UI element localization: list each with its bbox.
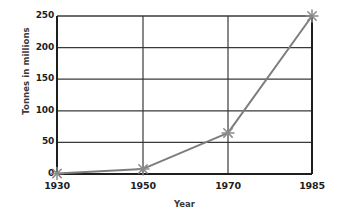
x-tick-label-1930: 1930 <box>27 180 87 191</box>
x-axis-title: Year <box>57 199 312 209</box>
data-point-1930 <box>51 167 63 179</box>
data-point-1985 <box>306 10 318 22</box>
x-tick-label-1950: 1950 <box>113 180 173 191</box>
data-series-tonnes <box>57 16 312 173</box>
grid-horizontal <box>57 16 312 142</box>
data-point-1970 <box>222 127 234 139</box>
line-chart: Tonnes in millions 250 200 150 100 50 0 <box>0 0 338 224</box>
data-point-1950 <box>137 163 149 175</box>
x-tick-label-1985: 1985 <box>282 180 338 191</box>
data-markers <box>51 10 318 179</box>
x-tick-label-1970: 1970 <box>198 180 258 191</box>
